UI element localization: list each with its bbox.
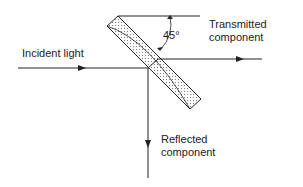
arrow-icon bbox=[78, 65, 86, 71]
transmitted-beam bbox=[158, 56, 262, 62]
reflected-label-line1: Reflected bbox=[161, 133, 207, 145]
reflected-beam bbox=[145, 68, 151, 178]
angle-label: 45° bbox=[163, 29, 180, 41]
reflected-label-line2: component bbox=[161, 146, 215, 158]
transmitted-label-line1: Transmitted bbox=[209, 18, 267, 30]
arrow-icon bbox=[236, 56, 244, 62]
beam-splitter-diagram: 45° Transmitted component Incident light… bbox=[0, 0, 303, 187]
incident-beam bbox=[18, 65, 148, 71]
beam-splitter-plate bbox=[107, 16, 201, 109]
incident-label: Incident light bbox=[22, 47, 84, 59]
transmitted-label-line2: component bbox=[209, 31, 263, 43]
arrow-icon bbox=[145, 140, 151, 148]
